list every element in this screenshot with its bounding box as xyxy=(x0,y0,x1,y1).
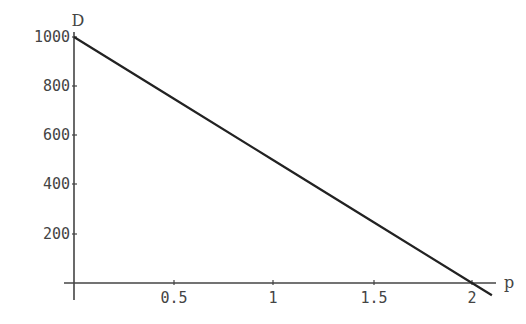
x-tick-label: 1 xyxy=(268,289,277,307)
y-tick-label: 1000 xyxy=(34,28,70,46)
y-tick-label: 800 xyxy=(43,77,70,95)
x-tick-labels: 0.5 1 1.5 2 xyxy=(160,289,476,307)
x-tick-label: 1.5 xyxy=(360,289,387,307)
chart: 1000 800 600 400 200 0.5 1 1.5 2 D p xyxy=(0,0,526,324)
x-axis-label: p xyxy=(504,273,514,292)
y-tick-labels: 1000 800 600 400 200 xyxy=(34,28,70,243)
y-tick-label: 600 xyxy=(43,126,70,144)
y-axis-label: D xyxy=(72,11,85,30)
x-tick-label: 2 xyxy=(467,289,476,307)
x-tick-label: 0.5 xyxy=(160,289,187,307)
demand-line xyxy=(74,37,492,295)
y-tick-label: 200 xyxy=(43,225,70,243)
y-tick-label: 400 xyxy=(43,175,70,193)
